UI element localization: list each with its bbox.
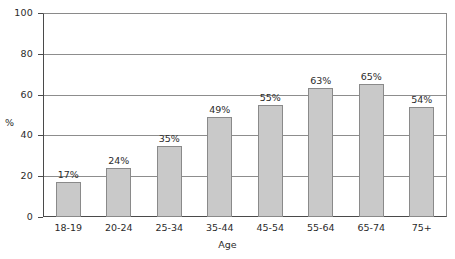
- bar-value-label: 24%: [108, 155, 129, 166]
- bar[interactable]: [308, 88, 333, 217]
- bar[interactable]: [106, 168, 131, 217]
- bar[interactable]: [258, 105, 283, 217]
- y-tick-label: 0: [5, 211, 33, 222]
- bar[interactable]: [157, 146, 182, 217]
- bar[interactable]: [207, 117, 232, 217]
- x-tick-label: 25-34: [144, 222, 195, 233]
- x-tick-label: 65-74: [346, 222, 397, 233]
- bar-value-label: 49%: [209, 104, 230, 115]
- y-tick-label: 20: [5, 170, 33, 181]
- bar[interactable]: [359, 84, 384, 217]
- bar-group[interactable]: 63%: [308, 13, 333, 217]
- y-tick-mark: [38, 217, 43, 218]
- x-tick-label: 45-54: [245, 222, 296, 233]
- bar-group[interactable]: 49%: [207, 13, 232, 217]
- y-tick-label: 40: [5, 129, 33, 140]
- x-tick-label: 75+: [397, 222, 448, 233]
- bar-value-label: 17%: [58, 169, 79, 180]
- bar-value-label: 35%: [159, 133, 180, 144]
- bar[interactable]: [56, 182, 81, 217]
- bar-group[interactable]: 35%: [157, 13, 182, 217]
- bars-layer: 17%24%35%49%55%63%65%54%: [43, 13, 447, 217]
- y-tick-label: 60: [5, 89, 33, 100]
- bar-group[interactable]: 65%: [359, 13, 384, 217]
- bar[interactable]: [409, 107, 434, 217]
- bar-value-label: 54%: [411, 94, 432, 105]
- y-tick-label: 100: [5, 7, 33, 18]
- x-tick-label: 18-19: [43, 222, 94, 233]
- x-tick-label: 35-44: [195, 222, 246, 233]
- bar-value-label: 65%: [361, 71, 382, 82]
- x-tick-label: 20-24: [94, 222, 145, 233]
- bar-value-label: 63%: [310, 75, 331, 86]
- x-tick-label: 55-64: [296, 222, 347, 233]
- y-axis-title: %: [5, 117, 14, 128]
- bar-group[interactable]: 55%: [258, 13, 283, 217]
- y-tick-label: 80: [5, 48, 33, 59]
- bar-value-label: 55%: [260, 92, 281, 103]
- bar-group[interactable]: 24%: [106, 13, 131, 217]
- bar-chart: % 020406080100 17%24%35%49%55%63%65%54% …: [0, 0, 455, 259]
- bar-group[interactable]: 17%: [56, 13, 81, 217]
- bar-group[interactable]: 54%: [409, 13, 434, 217]
- x-axis-title: Age: [0, 239, 455, 250]
